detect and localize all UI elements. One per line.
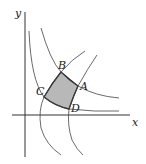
point-b-label: B <box>57 59 66 72</box>
y-axis-label: y <box>14 7 22 20</box>
diagram: y x B A C D <box>0 0 146 164</box>
point-d-label: D <box>70 102 80 115</box>
point-a-label: A <box>79 80 88 93</box>
x-axis-label: x <box>132 116 139 129</box>
curve-lower-hyperbola <box>29 31 119 111</box>
point-c-label: C <box>36 85 45 98</box>
curve-d-lower <box>68 109 83 155</box>
